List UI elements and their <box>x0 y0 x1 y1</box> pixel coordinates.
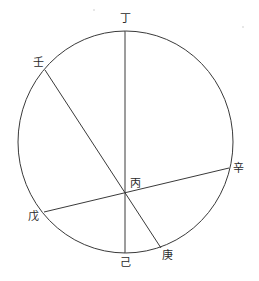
label-bing-center: 丙 <box>130 177 141 190</box>
label-ji: 己 <box>120 256 131 269</box>
chord-wu-xin <box>44 168 229 212</box>
label-ding: 丁 <box>120 12 131 25</box>
label-ren: 壬 <box>33 56 44 69</box>
scan-speck <box>242 26 244 28</box>
geometry-diagram: 丁 壬 辛 丙 戊 己 庚 <box>0 0 259 281</box>
scan-speck <box>93 9 95 11</box>
label-wu: 戊 <box>28 210 39 223</box>
label-geng: 庚 <box>162 248 173 262</box>
label-xin: 辛 <box>233 161 244 175</box>
chord-ren-geng <box>45 70 161 248</box>
